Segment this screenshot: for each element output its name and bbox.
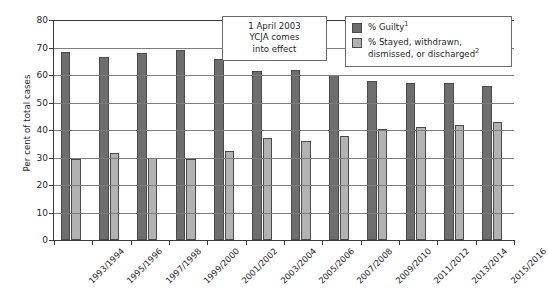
x-tick-mark: [131, 240, 132, 245]
annotation-line-2: YCJA comes: [226, 32, 323, 43]
x-axis-label: 1999/2000: [201, 246, 241, 286]
legend-label-stayed: % Stayed, withdrawn,dismissed, or discha…: [368, 37, 479, 60]
gridline: [54, 130, 514, 131]
x-axis-label: 2011/2012: [431, 246, 471, 286]
y-tick-label: 10: [37, 208, 54, 218]
gridline: [54, 185, 514, 186]
chart-legend: % Guilty1 % Stayed, withdrawn,dismissed,…: [345, 16, 512, 67]
bar-stayed: [493, 122, 503, 240]
x-axis-label: 2005/2006: [316, 246, 356, 286]
x-axis-label: 2007/2008: [355, 246, 395, 286]
legend-footnote-1: 1: [404, 20, 408, 28]
legend-item-stayed: % Stayed, withdrawn,dismissed, or discha…: [352, 37, 505, 60]
x-tick-mark: [54, 240, 55, 245]
gridline: [54, 158, 514, 159]
y-tick-label: 40: [37, 125, 54, 135]
bar-stayed: [455, 125, 465, 241]
x-tick-mark: [284, 240, 285, 245]
legend-label-guilty-text: % Guilty: [368, 22, 404, 32]
annotation-line-1: 1 April 2003: [226, 21, 323, 32]
x-axis-label: 2003/2004: [278, 246, 318, 286]
bar-stayed: [416, 127, 426, 240]
bar-guilty: [482, 86, 492, 240]
x-axis-label: 1997/1998: [163, 246, 203, 286]
x-tick-mark: [476, 240, 477, 245]
bar-guilty: [291, 70, 301, 241]
bar-stayed: [186, 159, 196, 240]
y-tick-label: 20: [37, 180, 54, 190]
legend-item-guilty: % Guilty1: [352, 22, 505, 33]
x-tick-mark: [361, 240, 362, 245]
x-tick-mark: [399, 240, 400, 245]
x-tick-mark: [169, 240, 170, 245]
bar-guilty: [406, 83, 416, 240]
y-tick-label: 0: [42, 235, 54, 245]
bar-stayed: [225, 151, 235, 240]
y-axis-title: Per cent of total cases: [22, 33, 32, 213]
y-tick-label: 60: [37, 70, 54, 80]
ycja-annotation-callout: 1 April 2003 YCJA comes into effect: [222, 16, 327, 61]
x-tick-mark: [322, 240, 323, 245]
y-tick-label: 80: [37, 15, 54, 25]
bar-stayed: [263, 138, 273, 240]
bar-guilty: [444, 83, 454, 240]
x-tick-mark: [207, 240, 208, 245]
legend-label-stayed-line2: dismissed, or discharged: [368, 49, 475, 59]
gridline: [54, 75, 514, 76]
bar-stayed: [71, 159, 81, 240]
bar-stayed: [110, 153, 120, 240]
x-tick-mark: [437, 240, 438, 245]
x-tick-mark: [514, 240, 515, 245]
x-tick-mark: [246, 240, 247, 245]
x-tick-mark: [92, 240, 93, 245]
annotation-line-3: into effect: [226, 44, 323, 55]
bar-stayed: [340, 136, 350, 241]
x-axis-label: 2015/2016: [508, 246, 548, 286]
bar-stayed: [148, 158, 158, 241]
legend-label-guilty: % Guilty1: [368, 22, 408, 33]
gridline: [54, 103, 514, 104]
y-tick-label: 70: [37, 43, 54, 53]
legend-swatch-stayed-icon: [352, 38, 362, 48]
y-tick-label: 30: [37, 153, 54, 163]
x-axis-label: 1995/1996: [125, 246, 165, 286]
x-axis-label: 2013/2014: [470, 246, 510, 286]
bar-guilty: [252, 71, 262, 240]
bar-stayed: [301, 141, 311, 240]
legend-footnote-2: 2: [475, 47, 479, 55]
bar-guilty: [367, 81, 377, 241]
x-axis-label: 1993/1994: [86, 246, 126, 286]
legend-swatch-guilty-icon: [352, 23, 362, 33]
legend-label-stayed-line1: % Stayed, withdrawn,: [368, 37, 462, 47]
x-axis-label: 2009/2010: [393, 246, 433, 286]
y-tick-label: 50: [37, 98, 54, 108]
x-axis-label: 2001/2002: [240, 246, 280, 286]
gridline: [54, 213, 514, 214]
